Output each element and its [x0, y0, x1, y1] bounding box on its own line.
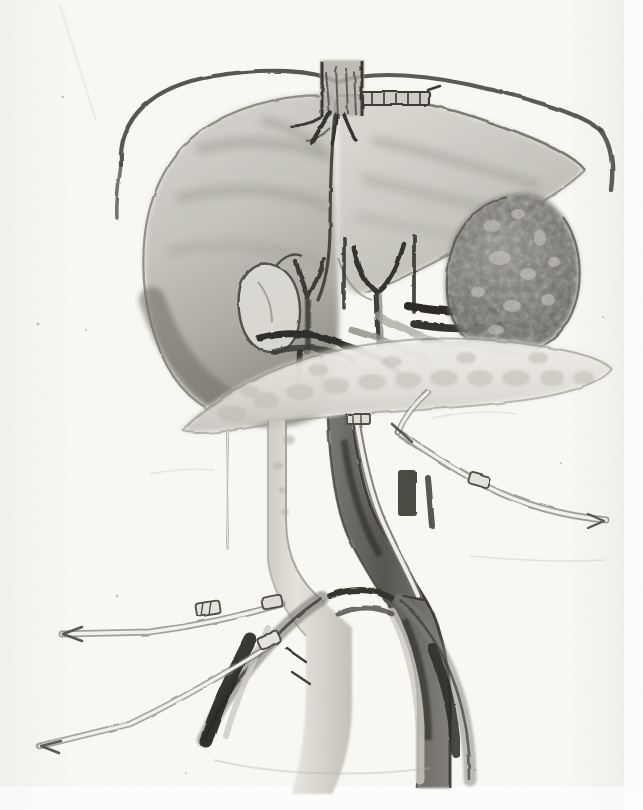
- thin-duct-left: [227, 430, 229, 548]
- cannula-left-upper-connector: [195, 600, 221, 617]
- figure-root: Abdominal viscera with aortic and caval …: [0, 0, 643, 810]
- cannula-cava-connector: [346, 414, 370, 424]
- anatomical-illustration: [0, 0, 643, 810]
